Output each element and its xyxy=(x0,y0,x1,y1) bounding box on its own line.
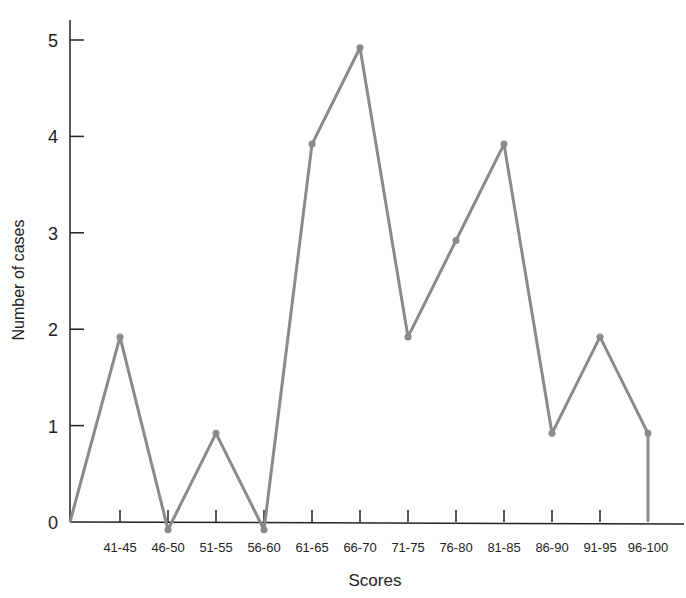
x-tick-label: 81-85 xyxy=(487,540,520,555)
data-point xyxy=(453,237,460,244)
y-axis-title: Number of cases xyxy=(10,220,27,341)
x-tick-label: 41-45 xyxy=(103,540,136,555)
data-point xyxy=(117,333,124,340)
axes xyxy=(70,20,684,524)
data-point xyxy=(213,430,220,437)
y-tick-label: 4 xyxy=(48,127,58,147)
x-tick-label: 86-90 xyxy=(535,540,568,555)
data-point xyxy=(501,141,508,148)
x-tick-label: 56-60 xyxy=(247,540,280,555)
data-series xyxy=(70,44,652,533)
x-tick-label: 71-75 xyxy=(391,540,424,555)
y-tick-label: 2 xyxy=(48,320,58,340)
data-point xyxy=(357,44,364,51)
y-tick-label: 0 xyxy=(48,513,58,533)
data-point xyxy=(645,430,652,437)
x-ticks: 41-4546-5051-5556-6061-6566-7071-7576-80… xyxy=(103,510,668,555)
y-tick-label: 1 xyxy=(48,417,58,437)
data-point xyxy=(549,430,556,437)
data-point xyxy=(309,141,316,148)
y-ticks: 012345 xyxy=(48,31,84,533)
data-point xyxy=(405,333,412,340)
x-axis xyxy=(70,522,684,524)
y-tick-label: 5 xyxy=(48,31,58,51)
x-tick-label: 46-50 xyxy=(151,540,184,555)
series-line xyxy=(70,48,648,530)
line-chart: 012345 41-4546-5051-5556-6061-6566-7071-… xyxy=(0,0,686,598)
y-tick-label: 3 xyxy=(48,224,58,244)
x-tick-label: 96-100 xyxy=(628,540,668,555)
x-tick-label: 66-70 xyxy=(343,540,376,555)
data-point xyxy=(597,333,604,340)
x-tick-label: 51-55 xyxy=(199,540,232,555)
data-point xyxy=(261,526,268,533)
data-point xyxy=(165,526,172,533)
x-tick-label: 91-95 xyxy=(583,540,616,555)
x-tick-label: 61-65 xyxy=(295,540,328,555)
x-tick-label: 76-80 xyxy=(439,540,472,555)
x-axis-title: Scores xyxy=(349,571,402,590)
